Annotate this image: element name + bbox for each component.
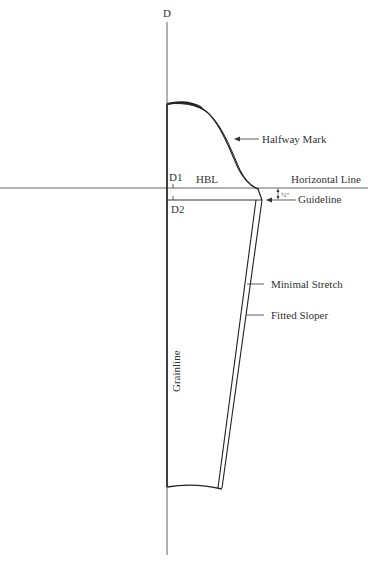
underarm-minimal-stretch xyxy=(218,200,256,488)
sleeve-cap-fitted-sloper xyxy=(167,103,262,200)
label-d1: D1 xyxy=(169,171,182,183)
label-guideline: Guideline xyxy=(298,193,341,205)
label-half-inch: ½" xyxy=(281,191,289,199)
label-hbl: HBL xyxy=(196,173,218,185)
axis-label-d: D xyxy=(163,7,171,19)
half-inch-arrow-down xyxy=(277,196,280,199)
label-grainline: Grainline xyxy=(170,350,182,392)
sleeve-draft-diagram: D D1 HBL D2 Horizontal Line ½" xyxy=(0,0,368,565)
half-inch-arrow-up xyxy=(277,189,280,192)
label-minimal-stretch: Minimal Stretch xyxy=(271,278,343,290)
label-halfway-mark: Halfway Mark xyxy=(262,133,327,145)
label-fitted-sloper: Fitted Sloper xyxy=(271,309,328,321)
label-d2: D2 xyxy=(171,203,184,215)
guideline-arrowhead xyxy=(266,198,272,203)
diagram-canvas: D D1 HBL D2 Horizontal Line ½" xyxy=(0,0,368,565)
halfway-mark-arrowhead xyxy=(234,137,240,142)
label-horizontal-line: Horizontal Line xyxy=(291,173,361,185)
underarm-fitted-sloper xyxy=(222,200,262,488)
sleeve-hem xyxy=(167,485,222,489)
